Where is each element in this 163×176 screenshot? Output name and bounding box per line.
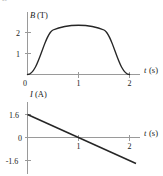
physics-figure: B B (T) t (s) 1 2 0 1 2 <box>0 0 163 176</box>
y-axis-label-unit: (A) <box>35 89 47 99</box>
chart-current-canvas: I (A) t (s) 1.6 0 -1.6 1 2 <box>0 88 163 176</box>
x-axis-label-unit: (s) <box>149 128 158 138</box>
y-ticklabel-2: 2 <box>16 29 20 38</box>
chart-magnetic-field-canvas: B (T) t (s) 1 2 0 1 2 <box>0 4 163 90</box>
origin-label: 0 <box>23 79 27 88</box>
x-axis-label-unit: (s) <box>149 65 158 75</box>
x-axis-label-symbol: t <box>144 128 147 138</box>
chart-current: I (A) t (s) 1.6 0 -1.6 1 2 <box>0 88 163 176</box>
y-axis-label-symbol: B <box>30 10 35 20</box>
y-ticklabel-0: 0 <box>18 134 22 143</box>
y-axis-label-symbol: I <box>29 89 34 99</box>
y-ticklabel-1point6: 1.6 <box>9 111 19 120</box>
x-ticklabel-2: 2 <box>128 142 132 151</box>
y-ticklabel-1: 1 <box>16 50 20 59</box>
x-ticklabel-1: 1 <box>77 142 81 151</box>
series-current-line <box>28 115 137 164</box>
y-ticklabel-negative-1point6: -1.6 <box>6 157 19 166</box>
series-magnetic-field-curve <box>28 25 130 74</box>
y-axis-label-unit: (T) <box>37 10 48 20</box>
x-ticklabel-2: 2 <box>128 79 132 88</box>
x-ticklabel-1: 1 <box>77 79 81 88</box>
x-axis-label-symbol: t <box>144 65 147 75</box>
clipped-top-label: B <box>2 0 7 3</box>
chart-magnetic-field: B (T) t (s) 1 2 0 1 2 <box>0 4 163 90</box>
